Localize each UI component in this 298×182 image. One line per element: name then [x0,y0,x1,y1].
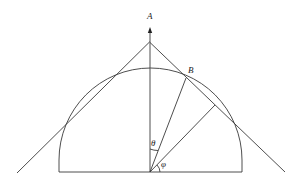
arrow-head-icon [148,27,152,33]
left-tangent-line [17,42,150,173]
radius-to-b [150,78,186,172]
radius-to-tangent-point [150,105,215,172]
phi-angle-arc [157,165,160,172]
right-tangent-line [150,42,286,172]
label-a: A [146,11,153,21]
label-theta: θ [151,138,156,148]
label-phi: φ [161,159,166,169]
label-b: B [188,65,194,75]
theta-angle-arc [150,149,158,151]
semicircle-arc [59,68,242,172]
geometry-diagram: A B θ φ [0,0,298,182]
